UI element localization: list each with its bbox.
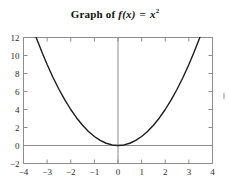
x-tick-label: −3 xyxy=(42,167,52,177)
x-tick-label: 1 xyxy=(139,167,144,177)
x-tick-label: 2 xyxy=(163,167,168,177)
x-tick-label: 4 xyxy=(210,167,215,177)
chart-figure: Graph of f(x) = x2 −2024681012 −4−3−2−10… xyxy=(0,0,230,188)
x-tick-label: 3 xyxy=(187,167,192,177)
y-tick-label: 4 xyxy=(15,105,20,115)
y-tick-label: 6 xyxy=(15,87,20,97)
y-tick-label: 10 xyxy=(11,51,21,61)
plot-area: −2024681012 −4−3−2−101234 xyxy=(0,0,230,188)
y-tick-label: 12 xyxy=(11,33,20,43)
x-axis-tick-labels: −4−3−2−101234 xyxy=(19,167,216,177)
x-tick-label: −1 xyxy=(90,167,100,177)
x-tick-label: −2 xyxy=(66,167,76,177)
x-tick-label: −4 xyxy=(19,167,29,177)
x-tick-label: 0 xyxy=(116,167,121,177)
edge-artifact xyxy=(223,93,225,99)
y-tick-label: 2 xyxy=(15,123,20,133)
y-tick-label: 8 xyxy=(15,69,20,79)
y-tick-label: 0 xyxy=(15,141,20,151)
y-axis-tick-labels: −2024681012 xyxy=(10,33,20,169)
